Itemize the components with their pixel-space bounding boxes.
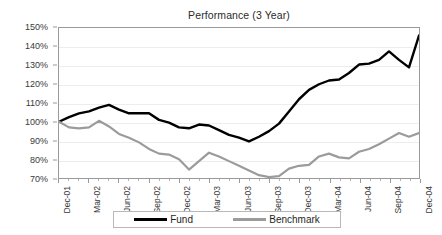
y-tick-label: 90% <box>30 136 48 146</box>
x-tick-label: Dec-02 <box>182 186 192 213</box>
x-minor-tick-mark <box>380 179 381 181</box>
x-minor-tick-mark <box>108 179 109 181</box>
y-tick-mark <box>53 122 57 123</box>
x-minor-tick-mark <box>219 179 220 181</box>
x-tick-label: Jun-02 <box>122 186 132 212</box>
x-tick-label: Jun-04 <box>363 186 373 212</box>
y-tick-label: 80% <box>30 155 48 165</box>
x-minor-tick-mark <box>78 179 79 181</box>
legend-label-fund: Fund <box>170 214 193 225</box>
y-tick-mark <box>53 160 57 161</box>
x-tick-mark <box>420 179 421 183</box>
y-tick-label: 150% <box>25 22 48 32</box>
x-tick-mark <box>360 179 361 183</box>
x-tick-label: Sep-04 <box>393 186 403 213</box>
y-tick-mark <box>53 27 57 28</box>
x-tick-mark <box>269 179 270 183</box>
x-minor-tick-mark <box>370 179 371 181</box>
plot-inner <box>59 28 419 178</box>
x-tick-mark <box>118 179 119 183</box>
x-tick-mark <box>299 179 300 183</box>
x-minor-tick-mark <box>410 179 411 181</box>
x-minor-tick-mark <box>98 179 99 181</box>
series-line-benchmark <box>59 121 419 177</box>
x-minor-tick-mark <box>309 179 310 181</box>
y-tick-label: 100% <box>25 117 48 127</box>
x-tick-label: Sep-02 <box>152 186 162 213</box>
x-minor-tick-mark <box>169 179 170 181</box>
y-tick-label: 120% <box>25 79 48 89</box>
y-axis: 150%140%130%120%110%100%90%80%70% <box>0 27 54 179</box>
legend-item-benchmark: Benchmark <box>233 214 320 225</box>
x-minor-tick-mark <box>189 179 190 181</box>
series-lines <box>59 28 419 178</box>
y-tick-label: 140% <box>25 41 48 51</box>
y-tick-mark <box>53 179 57 180</box>
y-tick-mark <box>53 65 57 66</box>
y-tick-mark <box>53 46 57 47</box>
x-minor-tick-mark <box>279 179 280 181</box>
x-minor-tick-mark <box>259 179 260 181</box>
y-tick-mark <box>53 103 57 104</box>
x-tick-label: Dec-03 <box>303 186 313 213</box>
x-tick-mark <box>179 179 180 183</box>
y-tick-mark <box>53 84 57 85</box>
x-minor-tick-mark <box>350 179 351 181</box>
x-minor-tick-mark <box>159 179 160 181</box>
y-tick-label: 110% <box>26 98 48 108</box>
x-tick-label: Sep-03 <box>273 186 283 213</box>
performance-chart: Performance (3 Year) 150%140%130%120%110… <box>0 0 442 235</box>
x-tick-mark <box>390 179 391 183</box>
y-tick-label: 70% <box>30 174 48 184</box>
x-minor-tick-mark <box>199 179 200 181</box>
x-minor-tick-mark <box>249 179 250 181</box>
x-minor-tick-mark <box>68 179 69 181</box>
x-minor-tick-mark <box>289 179 290 181</box>
legend-swatch-fund-icon <box>134 218 167 222</box>
x-tick-label: Dec-01 <box>62 186 72 213</box>
x-minor-tick-mark <box>138 179 139 181</box>
legend-label-benchmark: Benchmark <box>269 214 320 225</box>
x-tick-label: Mar-03 <box>212 186 222 213</box>
x-minor-tick-mark <box>319 179 320 181</box>
plot-area <box>58 27 420 179</box>
y-tick-mark <box>53 141 57 142</box>
chart-title: Performance (3 Year) <box>58 9 420 21</box>
x-tick-mark <box>58 179 59 183</box>
x-tick-mark <box>88 179 89 183</box>
x-minor-tick-mark <box>229 179 230 181</box>
chart-legend: Fund Benchmark <box>113 211 341 228</box>
x-tick-label: Dec-04 <box>424 186 434 213</box>
x-tick-mark <box>239 179 240 183</box>
y-tick-label: 130% <box>25 60 48 70</box>
x-tick-label: Jun-03 <box>243 186 253 212</box>
x-tick-mark <box>209 179 210 183</box>
x-minor-tick-mark <box>128 179 129 181</box>
x-tick-label: Mar-02 <box>92 186 102 213</box>
x-tick-mark <box>149 179 150 183</box>
x-tick-label: Mar-04 <box>333 186 343 213</box>
legend-swatch-benchmark-icon <box>233 218 266 222</box>
legend-item-fund: Fund <box>134 214 193 225</box>
x-minor-tick-mark <box>340 179 341 181</box>
x-tick-mark <box>330 179 331 183</box>
series-line-fund <box>59 36 419 142</box>
x-minor-tick-mark <box>400 179 401 181</box>
